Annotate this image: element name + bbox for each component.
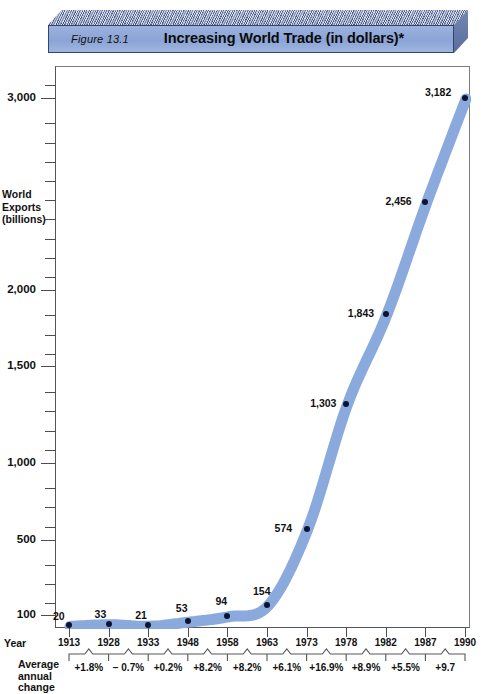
average-annual-change-value: +8.9%: [352, 662, 381, 673]
y-axis-minor-tick: [45, 411, 56, 412]
trade-growth-curve: [56, 67, 471, 629]
average-annual-change-braces: [0, 648, 488, 662]
x-axis-tick: [386, 628, 387, 637]
data-point-value-label: 21: [135, 609, 147, 621]
y-axis-tick-label: 1,500: [7, 359, 36, 371]
data-point-value-label: 3,182: [425, 86, 451, 98]
x-axis-tick: [425, 628, 426, 637]
y-axis-minor-tick: [45, 85, 56, 86]
x-axis-year-label: 1933: [137, 637, 159, 648]
x-axis-tick: [188, 628, 189, 637]
y-axis-title: World Exports (billions): [2, 188, 46, 226]
y-axis-title-line-2: Exports: [2, 201, 46, 214]
plaque-face: Figure 13.1 Increasing World Trade (in d…: [48, 25, 454, 53]
x-axis-year-label: 1958: [216, 637, 238, 648]
y-axis-minor-tick: [45, 488, 56, 489]
x-axis-year-label: 1928: [97, 637, 119, 648]
data-point: [185, 618, 191, 624]
y-axis-minor-tick: [45, 354, 56, 355]
x-axis-tick: [69, 628, 70, 637]
x-axis-tick: [267, 628, 268, 637]
average-annual-change-value: − 0.7%: [113, 662, 144, 673]
y-axis-minor-tick: [45, 162, 56, 163]
y-axis-minor-tick: [45, 258, 56, 259]
y-axis-tick-label: 1,000: [7, 456, 36, 468]
y-axis-major-tick: [41, 463, 56, 464]
x-axis-year-label: 1913: [58, 637, 80, 648]
x-axis-tick: [465, 628, 466, 637]
y-axis-major-tick: [41, 98, 56, 99]
y-axis-minor-tick: [45, 123, 56, 124]
y-axis-minor-tick: [45, 277, 56, 278]
average-annual-change-value: +5.5%: [391, 662, 420, 673]
x-axis-tick: [148, 628, 149, 637]
average-annual-change-value: +6.1%: [272, 662, 301, 673]
y-axis-title-line-1: World: [2, 188, 46, 201]
y-axis-minor-tick: [45, 431, 56, 432]
y-axis-tick-label: 500: [17, 533, 36, 545]
average-annual-change-value: +0.2%: [154, 662, 183, 673]
brace-path: [69, 649, 465, 661]
y-axis-minor-tick: [45, 527, 56, 528]
figure-number-label: Figure 13.1: [71, 33, 129, 45]
data-point-value-label: 2,456: [385, 195, 411, 207]
y-axis-minor-tick: [45, 565, 56, 566]
figure-header-plaque: Figure 13.1 Increasing World Trade (in d…: [48, 10, 468, 54]
y-axis-minor-tick: [45, 392, 56, 393]
x-axis-tick: [307, 628, 308, 637]
y-axis-minor-tick: [45, 239, 56, 240]
y-axis-minor-tick: [45, 450, 56, 451]
data-point: [383, 311, 389, 317]
data-point-value-label: 154: [253, 585, 271, 597]
y-axis-minor-tick: [45, 507, 56, 508]
x-axis-year-label: 1963: [256, 637, 278, 648]
data-point: [264, 602, 270, 608]
aac-title-line-3: change: [18, 682, 59, 694]
data-point-value-label: 1,843: [348, 307, 374, 319]
plot-area: [55, 66, 470, 628]
x-axis-tick: [227, 628, 228, 637]
y-axis-minor-tick: [45, 143, 56, 144]
x-axis-year-label: 1982: [375, 637, 397, 648]
y-axis-minor-tick: [45, 200, 56, 201]
data-point-value-label: 20: [53, 610, 65, 622]
x-axis-year-label: 1973: [295, 637, 317, 648]
x-axis-year-label: 1948: [177, 637, 199, 648]
y-axis-major-tick: [41, 540, 56, 541]
y-axis-minor-tick: [45, 584, 56, 585]
y-axis-title-line-3: (billions): [2, 213, 46, 226]
y-axis-major-tick: [41, 366, 56, 367]
plaque-top-bevel: [48, 10, 468, 26]
average-annual-change-value: +1.8%: [74, 662, 103, 673]
y-axis-tick-label: 100: [17, 608, 36, 620]
x-axis-tick: [346, 628, 347, 637]
y-axis-major-tick: [41, 290, 56, 291]
average-annual-change-value: +8.2%: [233, 662, 262, 673]
y-axis-minor-tick: [45, 219, 56, 220]
x-axis-year-label: 1987: [414, 637, 436, 648]
y-axis-minor-tick: [45, 335, 56, 336]
data-point-value-label: 94: [215, 595, 227, 607]
data-point-value-label: 53: [176, 602, 188, 614]
x-axis-tick: [109, 628, 110, 637]
data-point-value-label: 33: [95, 608, 107, 620]
average-annual-change-value: +8.2%: [193, 662, 222, 673]
x-axis-year-label: 1990: [454, 637, 476, 648]
y-axis-minor-tick: [45, 603, 56, 604]
data-point: [106, 621, 112, 627]
x-axis-year-label: 1978: [335, 637, 357, 648]
average-annual-change-title: Average annual change: [18, 659, 59, 694]
figure-title: Increasing World Trade (in dollars)*: [129, 30, 439, 46]
average-annual-change-value: +16.9%: [309, 662, 343, 673]
data-point: [304, 526, 310, 532]
data-point-value-label: 574: [275, 522, 293, 534]
y-axis-tick-label: 3,000: [7, 91, 36, 103]
average-annual-change-value: +9.7: [435, 662, 455, 673]
y-axis-minor-tick: [45, 315, 56, 316]
y-axis-minor-tick: [45, 181, 56, 182]
y-axis-tick-label: 2,000: [7, 283, 36, 295]
data-point: [462, 95, 468, 101]
data-point-value-label: 1,303: [310, 397, 336, 409]
